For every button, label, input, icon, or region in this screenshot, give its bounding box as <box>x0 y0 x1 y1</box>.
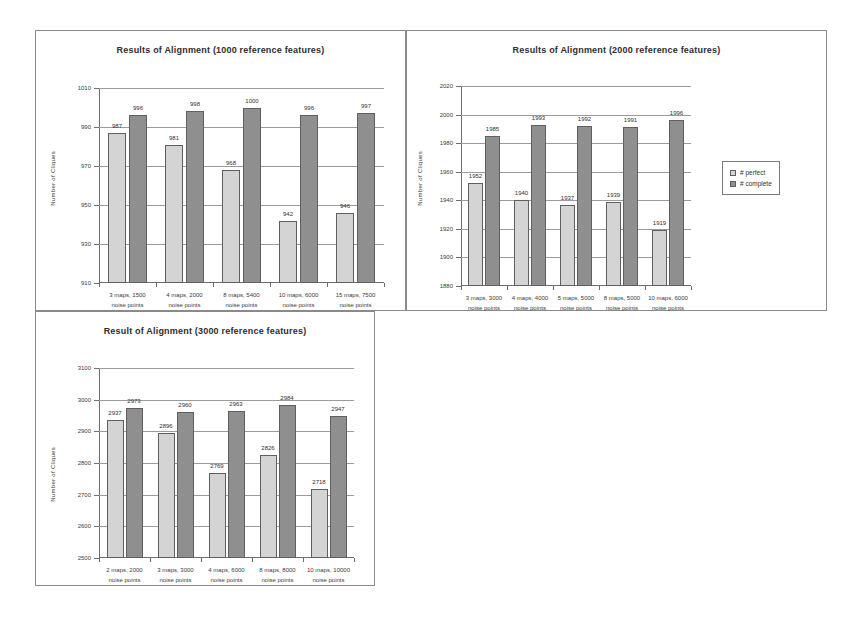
bar-perfect[interactable]: 946 <box>336 213 354 283</box>
bar-perfect[interactable]: 2896 <box>158 433 175 558</box>
bar-perfect[interactable]: 1919 <box>652 230 667 286</box>
bar-value-label: 2718 <box>312 479 325 485</box>
bar-complete[interactable]: 1000 <box>243 108 261 284</box>
x-axis-tick <box>156 283 157 287</box>
bar-complete[interactable]: 996 <box>129 115 147 283</box>
bar-complete[interactable]: 1985 <box>485 136 500 286</box>
x-axis-category-line: 4 maps, 2000 <box>156 290 213 300</box>
bar-perfect[interactable]: 1940 <box>514 200 529 286</box>
bar-perfect[interactable]: 2826 <box>260 455 277 558</box>
x-axis-category-line: noise points <box>461 303 507 313</box>
bar-perfect[interactable]: 2769 <box>209 473 226 558</box>
bar-perfect[interactable]: 981 <box>165 145 183 283</box>
bar-value-label: 1992 <box>578 116 591 122</box>
x-axis-tick <box>507 286 508 290</box>
bar-value-label: 1993 <box>532 115 545 121</box>
y-axis-tick-label: 1880 <box>440 283 453 289</box>
bar-perfect[interactable]: 968 <box>222 170 240 283</box>
bar-perfect[interactable]: 1937 <box>560 205 575 286</box>
bar-value-label: 2984 <box>280 395 293 401</box>
y-axis-tick-label: 1980 <box>440 140 453 146</box>
x-axis-category-label: 3 maps, 3000noise points <box>461 293 507 313</box>
x-axis-category-line: noise points <box>645 303 691 313</box>
y-axis-tick-label: 950 <box>81 202 91 208</box>
bar-complete[interactable]: 1991 <box>623 127 638 286</box>
x-axis-tick <box>303 558 304 562</box>
legend-label-perfect: # perfect <box>740 167 765 178</box>
bar-perfect[interactable]: 1939 <box>606 202 621 286</box>
bar-group: 27182947 <box>303 368 354 558</box>
x-axis-category-line: 4 maps, 4000 <box>507 293 553 303</box>
x-axis-category-line: 10 maps, 6000 <box>645 293 691 303</box>
bar-complete[interactable]: 2947 <box>330 416 347 558</box>
chart-legend: # perfect # complete <box>722 161 780 195</box>
x-axis-category-line: 10 maps, 10000 <box>303 565 354 575</box>
x-axis-tick <box>691 286 692 290</box>
y-axis-label-2000: Number of Cliques <box>417 151 423 206</box>
x-axis-category-label: 3 maps, 3000noise points <box>150 565 201 585</box>
bar-value-label: 1939 <box>607 192 620 198</box>
bar-value-label: 1985 <box>486 126 499 132</box>
x-axis-category-label: 15 maps, 7500noise points <box>327 290 384 310</box>
x-axis-tick <box>99 283 100 287</box>
x-axis-category-line: 3 maps, 3000 <box>461 293 507 303</box>
bar-complete[interactable]: 1996 <box>669 120 684 286</box>
y-axis-tick-label: 930 <box>81 241 91 247</box>
chart-title-2000: Results of Alignment (2000 reference fea… <box>407 45 826 55</box>
bar-complete[interactable]: 1993 <box>531 125 546 286</box>
bar-group: 27692963 <box>201 368 252 558</box>
y-axis-label-1000: Number of Cliques <box>50 151 56 206</box>
x-axis-category-line: 8 maps, 5400 <box>213 290 270 300</box>
x-axis-category-line: 15 maps, 7500 <box>327 290 384 300</box>
legend-swatch-perfect-icon <box>730 170 736 176</box>
bar-group: 19371992 <box>553 86 599 286</box>
x-axis-category-line: noise points <box>303 575 354 585</box>
x-axis-category-line: noise points <box>99 300 156 310</box>
bar-complete[interactable]: 2973 <box>126 408 143 558</box>
x-axis-category-line: noise points <box>99 575 150 585</box>
bar-value-label: 996 <box>304 105 314 111</box>
bar-complete[interactable]: 996 <box>300 115 318 283</box>
bar-group: 28962960 <box>150 368 201 558</box>
x-axis-category-label: 2 maps, 2000noise points <box>99 565 150 585</box>
bar-complete[interactable]: 997 <box>357 113 375 283</box>
x-axis-category-label: 4 maps, 2000noise points <box>156 290 213 310</box>
x-axis-tick <box>213 283 214 287</box>
bar-perfect[interactable]: 1952 <box>468 183 483 286</box>
y-axis-tick-label: 970 <box>81 163 91 169</box>
x-axis-tick <box>645 286 646 290</box>
bar-group: 19401993 <box>507 86 553 286</box>
bar-group: 987996 <box>99 88 156 283</box>
bar-complete[interactable]: 998 <box>186 111 204 283</box>
x-axis-category-label: 10 maps, 6000noise points <box>270 290 327 310</box>
bar-value-label: 2937 <box>108 410 121 416</box>
bar-perfect[interactable]: 942 <box>279 221 297 283</box>
y-axis-tick-label: 2700 <box>78 492 91 498</box>
bar-complete[interactable]: 2960 <box>177 412 194 558</box>
bar-value-label: 1919 <box>653 220 666 226</box>
bar-perfect[interactable]: 987 <box>108 133 126 283</box>
bar-complete[interactable]: 2963 <box>228 411 245 558</box>
legend-item-perfect: # perfect <box>730 167 772 178</box>
y-axis-tick-label: 910 <box>81 280 91 286</box>
y-axis-tick-label: 2800 <box>78 460 91 466</box>
y-axis-tick-label: 2600 <box>78 523 91 529</box>
chart-title-1000: Results of Alignment (1000 reference fea… <box>36 45 405 55</box>
x-axis-category-line: noise points <box>507 303 553 313</box>
x-axis-tick <box>599 286 600 290</box>
bar-value-label: 997 <box>361 103 371 109</box>
x-axis-category-label: 10 maps, 6000noise points <box>645 293 691 313</box>
bar-perfect[interactable]: 2718 <box>311 489 328 558</box>
bar-complete[interactable]: 2984 <box>279 405 296 558</box>
bar-perfect[interactable]: 2937 <box>107 420 124 558</box>
bar-complete[interactable]: 1992 <box>577 126 592 286</box>
x-axis-tick <box>354 558 355 562</box>
bar-group: 981998 <box>156 88 213 283</box>
bar-value-label: 2963 <box>229 401 242 407</box>
x-axis-tick <box>461 286 462 290</box>
x-axis-tick <box>327 283 328 287</box>
chart-panel-3000: Result of Alignment (3000 reference feat… <box>35 311 375 586</box>
x-axis-category-label: 10 maps, 10000noise points <box>303 565 354 585</box>
x-axis-category-label: 8 maps, 5000noise points <box>599 293 645 313</box>
y-axis-label-3000: Number of Cliques <box>50 447 56 502</box>
